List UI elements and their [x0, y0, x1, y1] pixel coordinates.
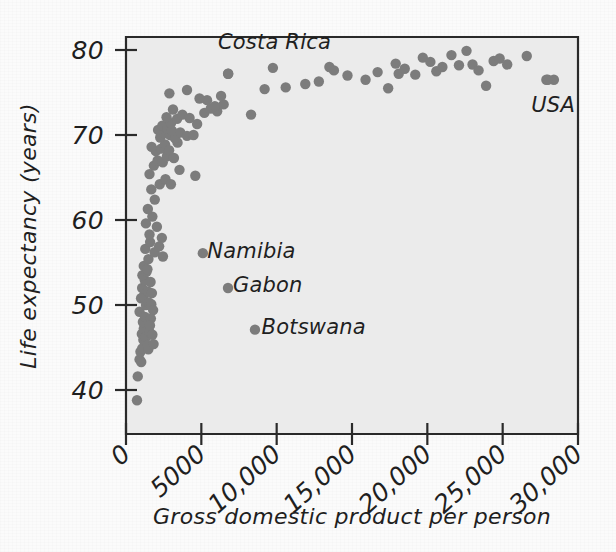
- data-point: [148, 339, 158, 349]
- data-point: [400, 63, 410, 73]
- annotation-label-gabon: Gabon: [233, 273, 303, 297]
- data-point: [522, 51, 532, 61]
- annotation-label-costa-rica: Costa Rica: [218, 30, 331, 54]
- data-point: [390, 58, 400, 68]
- data-point: [157, 233, 167, 243]
- data-point: [437, 62, 447, 72]
- y-tick-label-40: 40: [71, 376, 104, 405]
- x-axis-title: Gross domestic product per person: [153, 504, 551, 529]
- data-point: [145, 320, 155, 330]
- data-point: [281, 82, 291, 92]
- data-point: [383, 83, 393, 93]
- data-point: [502, 59, 512, 69]
- data-point: [144, 229, 154, 239]
- data-point: [329, 65, 339, 75]
- data-point: [188, 130, 198, 140]
- data-point: [314, 76, 324, 86]
- data-point: [194, 93, 204, 103]
- data-point-costa-rica: [223, 69, 233, 79]
- data-point: [210, 101, 220, 111]
- scatter-plot: 4050607080 0500010,00015,00020,00025,000…: [0, 0, 616, 552]
- data-point: [461, 46, 471, 56]
- data-point: [136, 357, 146, 367]
- figure-canvas: 4050607080 0500010,00015,00020,00025,000…: [0, 0, 616, 552]
- data-point: [147, 288, 157, 298]
- data-point: [372, 67, 382, 77]
- data-point: [481, 81, 491, 91]
- data-point-botswana: [250, 324, 260, 334]
- data-point: [259, 84, 269, 94]
- data-point: [446, 50, 456, 60]
- data-point: [342, 70, 352, 80]
- data-point: [166, 179, 176, 189]
- data-point: [152, 222, 162, 232]
- y-tick-label-50: 50: [71, 291, 104, 320]
- data-point: [473, 65, 483, 75]
- data-point: [147, 330, 157, 340]
- y-axis-title: Life expectancy (years): [16, 103, 41, 369]
- data-point: [246, 109, 256, 119]
- data-point: [169, 153, 179, 163]
- annotation-label-botswana: Botswana: [262, 315, 366, 339]
- y-tick-label-80: 80: [71, 36, 104, 65]
- y-axis-tick-labels: 4050607080: [71, 36, 104, 405]
- x-tick-label-0: 0: [105, 439, 136, 471]
- data-point: [158, 251, 168, 261]
- x-tick-label-5000: 5000: [145, 439, 212, 503]
- data-point: [410, 69, 420, 79]
- data-point: [190, 171, 200, 181]
- data-point: [182, 85, 192, 95]
- y-tick-label-60: 60: [71, 206, 104, 235]
- y-tick-label-70: 70: [71, 121, 104, 150]
- annotation-label-usa: USA: [531, 93, 575, 117]
- data-point: [168, 104, 178, 114]
- data-point-usa: [543, 75, 553, 85]
- data-point: [454, 60, 464, 70]
- data-point: [142, 264, 152, 274]
- data-point: [268, 63, 278, 73]
- plot-area-background: [126, 37, 578, 434]
- data-point: [174, 165, 184, 175]
- data-point-gabon: [223, 283, 233, 293]
- data-point: [132, 395, 142, 405]
- data-point: [164, 88, 174, 98]
- data-point: [146, 142, 156, 152]
- annotation-label-namibia: Namibia: [207, 239, 295, 263]
- data-point: [150, 194, 160, 204]
- data-point: [133, 371, 143, 381]
- data-point: [216, 91, 226, 101]
- data-point: [425, 57, 435, 67]
- data-point: [192, 119, 202, 129]
- data-point: [143, 204, 153, 214]
- data-point: [300, 79, 310, 89]
- data-point: [360, 75, 370, 85]
- data-point: [145, 277, 155, 287]
